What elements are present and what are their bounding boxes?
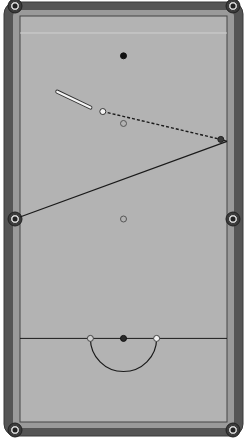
pink-spot <box>121 120 127 126</box>
object-ball <box>218 136 224 142</box>
pocket-hole-top-left <box>13 4 18 9</box>
yellow-spot <box>87 335 93 341</box>
pocket-hole-middle-right <box>231 217 236 222</box>
diagram-stage <box>0 0 247 438</box>
brown-spot <box>121 335 127 341</box>
snooker-table <box>0 0 247 438</box>
pocket-hole-bottom-right <box>231 428 236 433</box>
pocket-hole-bottom-left <box>13 428 18 433</box>
pocket-hole-middle-left <box>13 217 18 222</box>
pocket-hole-top-right <box>231 4 236 9</box>
blue-spot <box>121 216 127 222</box>
black-spot-ball <box>121 53 127 59</box>
cue-ball <box>100 109 106 115</box>
green-spot <box>154 335 160 341</box>
